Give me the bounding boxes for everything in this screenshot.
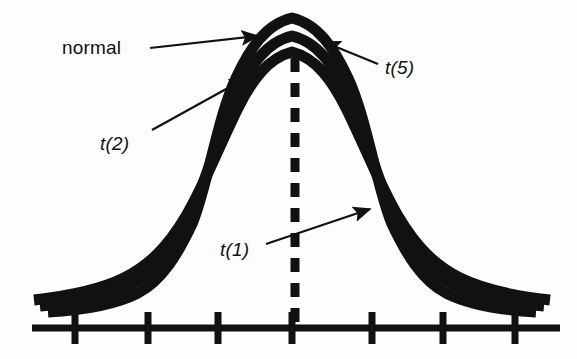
arrow-normal bbox=[150, 36, 258, 48]
label-t5: t(5) bbox=[385, 58, 414, 77]
arrow-t1 bbox=[266, 209, 370, 244]
t-distribution-figure: normal t(2) t(5) t(1) bbox=[0, 0, 577, 359]
label-normal: normal bbox=[62, 38, 121, 57]
label-t2: t(2) bbox=[100, 134, 129, 153]
label-t1: t(1) bbox=[220, 240, 249, 259]
